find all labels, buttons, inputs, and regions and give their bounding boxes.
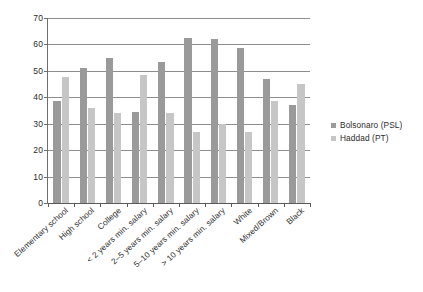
legend-label: Bolsonaro (PSL) — [340, 120, 402, 130]
bar — [53, 101, 60, 203]
bar — [211, 39, 218, 203]
bar-group — [158, 18, 173, 203]
bar — [166, 113, 173, 203]
bar — [88, 108, 95, 203]
bar — [140, 75, 147, 203]
y-axis-tick-label: 60 — [33, 39, 43, 49]
bar — [245, 132, 252, 203]
plot-area: 010203040506070 — [47, 18, 310, 204]
x-axis-tick-mark — [310, 203, 311, 207]
bar — [62, 77, 69, 203]
bar-group — [211, 18, 226, 203]
bar-group — [263, 18, 278, 203]
bar-group — [132, 18, 147, 203]
bar-group — [237, 18, 252, 203]
bar — [219, 124, 226, 203]
bar — [184, 38, 191, 203]
bar-group — [184, 18, 199, 203]
legend-item: Haddad (PT) — [331, 133, 421, 143]
bars-layer — [48, 18, 310, 203]
x-axis-labels: Elementary schoolHigh schoolCollege< 2 y… — [47, 206, 310, 292]
bar — [193, 132, 200, 203]
bar — [158, 62, 165, 203]
bar — [297, 84, 304, 203]
y-axis-tick-label: 70 — [33, 13, 43, 23]
bar-group — [106, 18, 121, 203]
legend-swatch-icon — [331, 123, 336, 128]
bar — [237, 48, 244, 203]
bar-group — [53, 18, 68, 203]
y-axis-tick-label: 0 — [38, 198, 43, 208]
bar — [80, 68, 87, 203]
legend-item: Bolsonaro (PSL) — [331, 120, 421, 130]
bar-chart-figure: 010203040506070 Elementary schoolHigh sc… — [0, 0, 423, 292]
bar — [132, 112, 139, 203]
legend-swatch-icon — [331, 136, 336, 141]
bar — [271, 101, 278, 203]
y-axis-tick-label: 30 — [33, 119, 43, 129]
y-axis-tick-label: 50 — [33, 66, 43, 76]
y-axis-tick-label: 40 — [33, 92, 43, 102]
bar — [106, 58, 113, 203]
bar — [263, 79, 270, 203]
bar — [289, 105, 296, 203]
bar-group — [289, 18, 304, 203]
y-axis-tick-label: 20 — [33, 145, 43, 155]
legend-label: Haddad (PT) — [340, 133, 389, 143]
y-axis-tick-label: 10 — [33, 172, 43, 182]
bar-group — [80, 18, 95, 203]
chart-legend: Bolsonaro (PSL) Haddad (PT) — [331, 120, 421, 146]
bar — [114, 113, 121, 203]
